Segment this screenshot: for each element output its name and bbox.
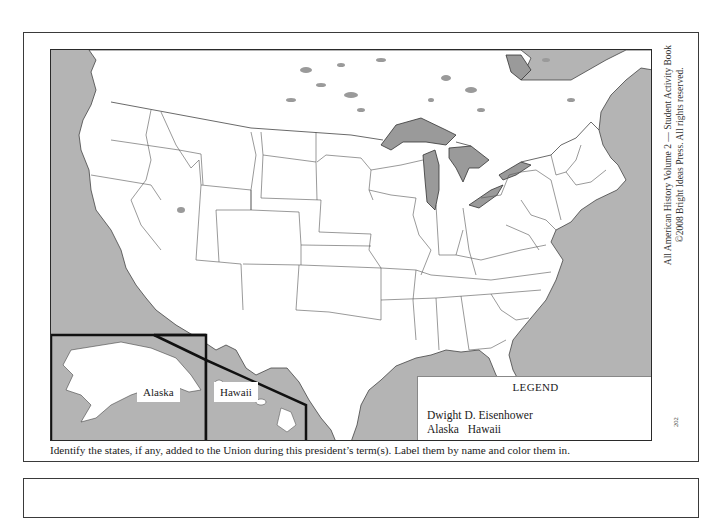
legend-states: Alaska Hawaii xyxy=(427,423,501,435)
hawaii-label: Hawaii xyxy=(214,382,258,402)
alaska-label: Alaska xyxy=(137,382,180,402)
credit-line2: ©2008 Bright Ideas Press. All rights res… xyxy=(674,35,686,275)
legend-box: LEGEND Dwight D. Eisenhower Alaska Hawai… xyxy=(417,376,652,441)
instruction-text: Identify the states, if any, added to th… xyxy=(50,444,570,456)
legend-president: Dwight D. Eisenhower xyxy=(427,409,533,421)
side-credit: All American History Volume 2 — Student … xyxy=(662,35,686,275)
us-map: Alaska Hawaii LEGEND Dwight D. Eisenhowe… xyxy=(50,49,652,441)
page-number: 202 xyxy=(672,417,679,427)
credit-line1: All American History Volume 2 — Student … xyxy=(662,35,674,275)
next-section-frame xyxy=(23,478,699,518)
legend-title: LEGEND xyxy=(418,381,652,393)
